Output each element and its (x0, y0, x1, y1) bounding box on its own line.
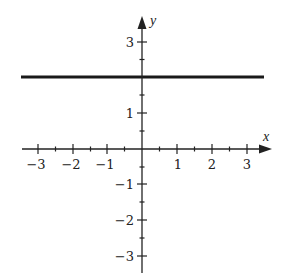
x-tick-label: 2 (208, 157, 216, 172)
x-tick-label: 1 (174, 157, 182, 172)
y-axis-arrow-icon (138, 16, 147, 29)
x-axis-label: x (262, 129, 270, 144)
x-tick-label: −1 (95, 157, 114, 172)
y-tick-label: −2 (115, 213, 134, 228)
x-axis-arrow-icon (259, 145, 272, 154)
y-tick-label: 3 (126, 35, 134, 50)
x-tick-label: −3 (26, 157, 45, 172)
x-tick-label: 3 (243, 157, 251, 172)
coordinate-plane: −3 −2 −1 1 2 3 3 1 −1 −2 −3 y x (0, 0, 290, 278)
y-tick-label: 1 (126, 106, 134, 121)
y-tick-label: −1 (115, 177, 134, 192)
x-tick-label: −2 (61, 157, 80, 172)
x-tick-labels: −3 −2 −1 1 2 3 (26, 157, 251, 172)
y-axis-label: y (148, 13, 157, 28)
y-tick-label: −3 (115, 249, 134, 264)
